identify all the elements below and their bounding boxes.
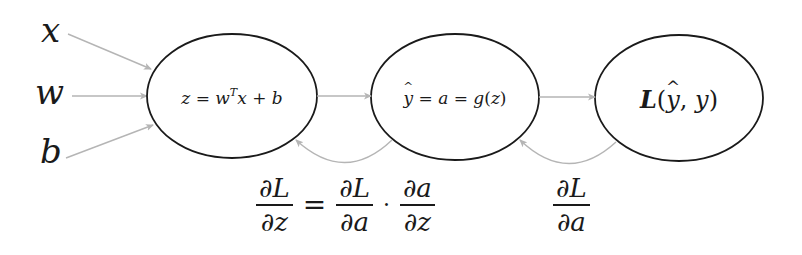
denominator: ∂a — [337, 206, 372, 238]
var-y-hat: y — [666, 86, 680, 114]
equals-sign: = — [413, 88, 438, 108]
equals-sign: = — [190, 88, 215, 108]
numerator: ∂L — [336, 172, 373, 204]
node-activation-label: y = a = g(z) — [403, 88, 506, 108]
var-b: b — [272, 88, 283, 108]
transpose-superscript: T — [230, 86, 237, 99]
input-label-w: w — [35, 72, 64, 112]
input-arrow-b — [66, 125, 153, 158]
denominator: ∂a — [554, 206, 589, 238]
plus-sign: + — [247, 88, 272, 108]
input-arrows — [66, 34, 153, 158]
equals-sign: = — [448, 88, 473, 108]
var-w: w — [215, 88, 230, 108]
denominator: ∂z — [258, 206, 291, 238]
numerator: ∂L — [256, 172, 293, 204]
fraction-dL-da: ∂L ∂a — [336, 172, 373, 238]
fraction-dL-da: ∂L ∂a — [553, 172, 590, 238]
node-loss-label: L(y, y) — [640, 85, 718, 114]
equals-sign: = — [303, 188, 326, 221]
var-y-hat: y — [403, 88, 413, 108]
fraction-dL-dz: ∂L ∂z — [256, 172, 293, 238]
paren-open: ( — [657, 86, 666, 114]
denominator: ∂z — [401, 206, 434, 238]
backward-arrow-activation-to-linear — [296, 140, 392, 163]
numerator: ∂L — [553, 172, 590, 204]
fraction-da-dz: ∂a ∂z — [400, 172, 435, 238]
func-g: g — [473, 88, 484, 108]
var-y: y — [695, 86, 709, 114]
paren-close: ) — [500, 88, 507, 108]
node-linear-label: z = wTx + b — [181, 86, 282, 108]
loss-function-L: L — [640, 85, 657, 114]
numerator: ∂a — [400, 172, 435, 204]
input-arrow-x — [68, 34, 151, 69]
var-z: z — [181, 88, 190, 108]
input-label-x: x — [41, 10, 60, 50]
paren-close: ) — [709, 86, 718, 114]
comma: , — [680, 86, 695, 114]
gradient-dL-da-label: ∂L ∂a — [553, 172, 590, 238]
chain-rule-equation: ∂L ∂z = ∂L ∂a · ∂a ∂z — [256, 172, 435, 238]
var-x: x — [237, 88, 247, 108]
var-a: a — [438, 88, 448, 108]
computation-graph-diagram: x w b z = wTx + b y = a = g(z) L(y, y) ∂… — [0, 0, 802, 255]
input-label-b: b — [40, 131, 62, 171]
multiply-dot: · — [383, 192, 390, 217]
backward-arrow-loss-to-activation — [520, 140, 616, 164]
